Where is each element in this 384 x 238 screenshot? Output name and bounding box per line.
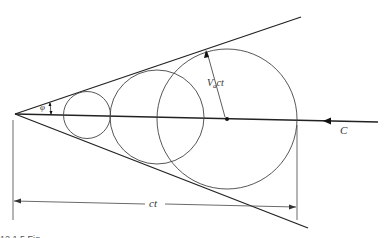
dimension-line-right (165, 204, 296, 207)
upper-cone-line (15, 17, 301, 114)
distance-label: ct (149, 197, 158, 209)
dimension-arrow-left-icon (14, 199, 21, 204)
source-label: C (340, 124, 348, 136)
dimension-line-left (14, 201, 145, 204)
mach-cone-diagram: φ Vact C ct 12.1.5 Fig... (0, 0, 384, 238)
radius-label: Vact (207, 77, 224, 90)
center-dot (225, 117, 229, 121)
figure-caption: 12.1.5 Fig... (0, 234, 48, 238)
source-arrow-icon (323, 118, 331, 125)
angle-label: φ (40, 102, 45, 112)
lower-cone-line (15, 114, 308, 228)
dimension-arrow-right-icon (289, 205, 296, 210)
